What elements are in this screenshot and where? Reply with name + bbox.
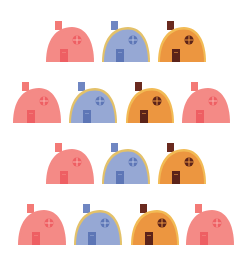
door-detail [174, 52, 178, 53]
house-orange [157, 21, 207, 63]
door-detail [118, 174, 122, 175]
door-detail [34, 235, 38, 236]
chimney [111, 143, 118, 152]
chimney [195, 204, 202, 213]
chimney [27, 204, 34, 213]
house-pink [17, 204, 67, 246]
house-icon [101, 143, 151, 185]
door [172, 49, 180, 62]
chimney [140, 204, 147, 213]
house-orange [157, 143, 207, 185]
house-blue [101, 21, 151, 63]
chimney [55, 21, 62, 30]
door-detail [29, 113, 33, 114]
house-icon [125, 82, 175, 124]
house-icon [73, 204, 123, 246]
house-pink [12, 82, 62, 124]
door-detail [198, 113, 202, 114]
door-detail [142, 113, 146, 114]
chimney [135, 82, 142, 91]
door [116, 171, 124, 184]
chimney [167, 143, 174, 152]
house-icon [45, 143, 95, 185]
door [196, 110, 204, 123]
house-pink [185, 204, 235, 246]
house-icon [185, 204, 235, 246]
door [83, 110, 91, 123]
chimney [78, 82, 85, 91]
house-icon [17, 204, 67, 246]
house-pink [45, 21, 95, 63]
door-detail [85, 113, 89, 114]
house-icon [101, 21, 151, 63]
door [60, 171, 68, 184]
house-orange [125, 82, 175, 124]
house-pink [45, 143, 95, 185]
house-pink [181, 82, 231, 124]
door-detail [62, 174, 66, 175]
house-icon [12, 82, 62, 124]
house-icon [130, 204, 180, 246]
house-icon [45, 21, 95, 63]
chimney [22, 82, 29, 91]
house-blue [101, 143, 151, 185]
chimney [111, 21, 118, 30]
house-icon [157, 21, 207, 63]
door-detail [147, 235, 151, 236]
door [172, 171, 180, 184]
house-orange [130, 204, 180, 246]
house-blue [68, 82, 118, 124]
door-detail [90, 235, 94, 236]
house-icon [181, 82, 231, 124]
door [27, 110, 35, 123]
chimney [167, 21, 174, 30]
chimney [83, 204, 90, 213]
door [140, 110, 148, 123]
door [88, 232, 96, 245]
door-detail [202, 235, 206, 236]
door-detail [62, 52, 66, 53]
door [200, 232, 208, 245]
house-icon [68, 82, 118, 124]
door-detail [118, 52, 122, 53]
chimney [191, 82, 198, 91]
house-blue [73, 204, 123, 246]
door [145, 232, 153, 245]
chimney [55, 143, 62, 152]
house-icon [157, 143, 207, 185]
door [60, 49, 68, 62]
door [32, 232, 40, 245]
door [116, 49, 124, 62]
door-detail [174, 174, 178, 175]
